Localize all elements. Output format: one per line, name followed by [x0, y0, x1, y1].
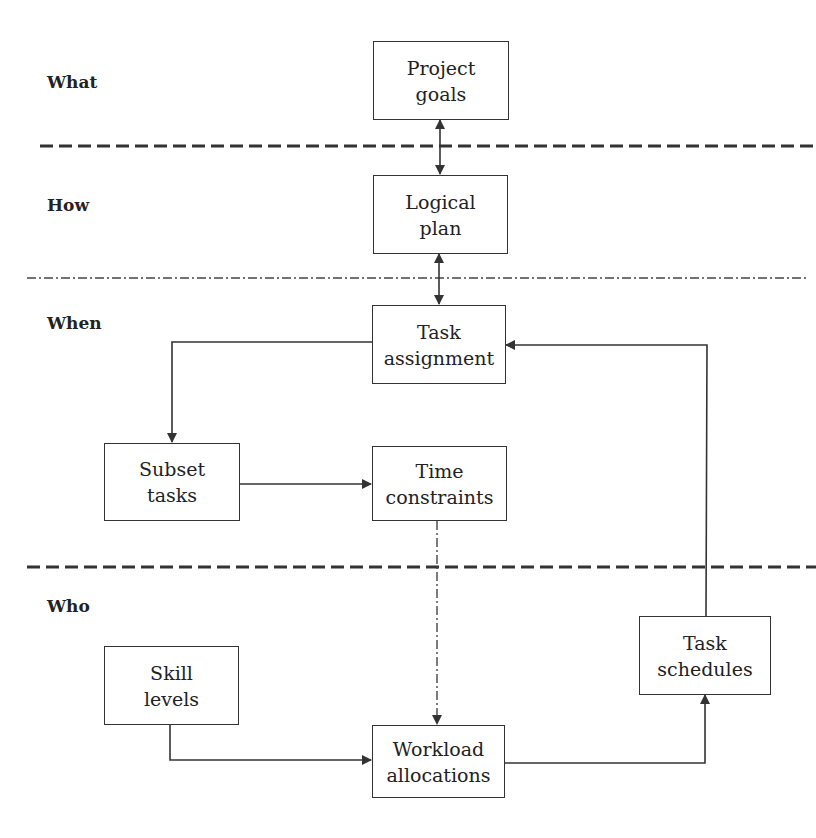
edge-workload-schedules	[505, 695, 705, 763]
edge-skill-workload	[170, 725, 371, 760]
node-workload-allocations: Workload allocations	[372, 725, 505, 798]
node-task-assignment: Task assignment	[372, 305, 506, 384]
node-time-constraints: Time constraints	[372, 446, 507, 521]
zone-label-how: How	[47, 195, 89, 215]
zone-label-what: What	[47, 72, 97, 92]
node-project-goals: Project goals	[373, 41, 509, 120]
edge-assignment-subset	[172, 342, 372, 442]
node-subset-tasks: Subset tasks	[104, 443, 240, 521]
node-logical-plan: Logical plan	[373, 175, 508, 254]
zone-label-when: When	[47, 313, 102, 333]
zone-label-who: Who	[47, 596, 90, 616]
node-task-schedules: Task schedules	[639, 616, 771, 695]
node-skill-levels: Skill levels	[104, 646, 239, 725]
edge-schedules-assignment	[506, 345, 707, 616]
